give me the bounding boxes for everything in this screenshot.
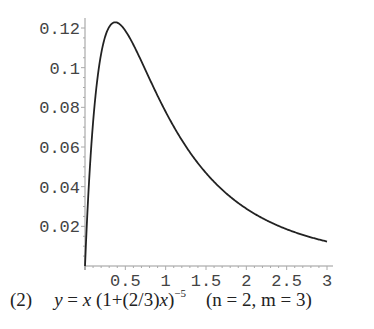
- eq-x: x: [83, 289, 91, 310]
- eq-exponent: −5: [174, 287, 186, 299]
- figure-caption: (2)y = x (1+(2/3)x)−5(n = 2, m = 3): [10, 287, 374, 311]
- eq-lhs: y: [54, 289, 62, 310]
- y-tick-label: 0.06: [39, 139, 80, 158]
- equation-params: (n = 2, m = 3): [206, 289, 312, 310]
- plot-area: 0.020.040.060.080.10.12 0.511.522.53: [0, 0, 374, 329]
- equation: y = x (1+(2/3)x)−5: [54, 289, 186, 310]
- eq-x2: x: [159, 289, 167, 310]
- equation-number: (2): [10, 289, 32, 310]
- eq-equals: =: [63, 289, 83, 310]
- y-tick-label: 0.04: [39, 179, 80, 198]
- y-tick-label: 0.08: [39, 99, 80, 118]
- y-tick-label: 0.12: [39, 20, 80, 39]
- function-curve: [85, 22, 327, 266]
- y-tick-label: 0.02: [39, 218, 80, 237]
- eq-paren: (1+(2/3): [91, 289, 159, 310]
- y-axis-ticks: 0.020.040.060.080.10.12: [39, 20, 80, 237]
- y-tick-label: 0.1: [49, 60, 80, 79]
